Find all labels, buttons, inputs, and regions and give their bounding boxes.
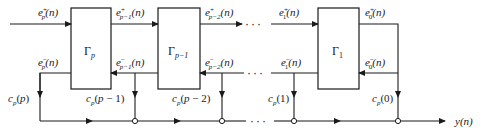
label-forward-p1: e+p−1(n) [116,6,145,21]
ellipsis-middle: ··· [247,66,265,80]
label-forward-0: e+0(n) [365,6,386,21]
label-cp-p1: cp(p − 1) [86,92,125,107]
block-gamma-p-1 [158,8,200,89]
label-cp-p2: cp(p − 2) [172,92,211,107]
label-cp-0: cp(0) [372,92,394,107]
label-cp-1: cp(1) [268,92,290,107]
label-backward-p2: e−p−2(n) [205,56,234,71]
block-gamma-p [71,8,111,89]
ellipsis-upper: ··· [245,17,263,31]
sum-node-p2 [219,118,224,123]
label-input-forward: e+p(n) [38,6,59,21]
lattice-diagram: Γp Γp−1 Γ1 ··· ··· ··· e+p(n) e+p−1(n) e… [0,0,482,132]
label-input-backward: e−p(n) [38,56,59,71]
label-output: y(n) [454,115,473,128]
label-forward-1: e+1(n) [279,6,300,21]
label-backward-1: e−1(n) [281,56,302,71]
label-backward-0: e−0(n) [365,56,386,71]
sum-node-p1 [132,118,137,123]
backward-p-line [40,73,71,121]
ellipsis-lower: ··· [250,114,268,128]
sum-node-0 [395,118,400,123]
label-cp-p: cp(p) [8,92,30,107]
sum-node-1 [291,118,296,123]
label-forward-p2: e+p−2(n) [205,6,234,21]
label-backward-p1: e−p−1(n) [116,56,145,71]
